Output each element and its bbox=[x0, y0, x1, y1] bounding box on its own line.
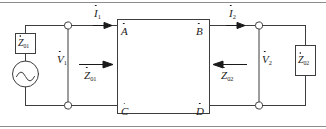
node-label-a: A bbox=[121, 26, 128, 37]
load-impedance-label: Z02 bbox=[298, 55, 309, 66]
phasor-dot-icon bbox=[198, 23, 200, 25]
output-current-arrow bbox=[226, 22, 245, 28]
phasor-dot-icon bbox=[300, 52, 302, 54]
phasor-dot-icon bbox=[95, 5, 97, 7]
phasor-dot-icon bbox=[86, 67, 88, 69]
source-impedance-label: Z01 bbox=[18, 38, 29, 49]
left-bottom-terminal-circle bbox=[64, 102, 71, 109]
input-current-arrow bbox=[93, 22, 112, 28]
node-label-b: B bbox=[196, 26, 203, 37]
phasor-dot-icon bbox=[264, 51, 266, 53]
phasor-dot-icon bbox=[123, 103, 125, 105]
circuit-schematic-canvas bbox=[0, 0, 326, 129]
page-rule-lines bbox=[0, 3, 326, 127]
ac-source-circle bbox=[13, 61, 39, 87]
input-voltage-label: V1 bbox=[57, 54, 67, 66]
node-label-d: D bbox=[196, 106, 204, 117]
input-impedance-arrow bbox=[79, 61, 113, 68]
input-impedance-label: Z01 bbox=[84, 70, 96, 82]
phasor-dot-icon bbox=[230, 5, 232, 7]
phasor-dot-icon bbox=[123, 23, 125, 25]
ac-source-sine-icon bbox=[17, 72, 35, 81]
circuit-diagram: Z01 I1 I2 V1 V2 Z01 Z02 Z02 A bbox=[0, 0, 326, 129]
phasor-dot-icon bbox=[59, 51, 61, 53]
phasor-dot-icon bbox=[20, 35, 22, 37]
input-current-label: I1 bbox=[94, 8, 101, 20]
output-impedance-label: Z02 bbox=[221, 70, 233, 82]
left-top-terminal-circle bbox=[64, 22, 71, 29]
phasor-dot-icon bbox=[223, 67, 225, 69]
output-current-label: I2 bbox=[229, 8, 236, 20]
phasor-dot-icon bbox=[199, 103, 201, 105]
output-voltage-label: V2 bbox=[262, 54, 272, 66]
output-impedance-arrow bbox=[213, 61, 247, 68]
right-bottom-terminal-circle bbox=[255, 102, 262, 109]
node-label-c: C bbox=[121, 106, 128, 117]
annotation-arrows bbox=[79, 22, 247, 68]
right-top-terminal-circle bbox=[255, 22, 262, 29]
